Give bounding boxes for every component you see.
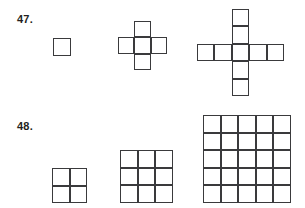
unit-square <box>70 168 88 186</box>
unit-square <box>203 168 221 186</box>
unit-square <box>221 133 239 151</box>
unit-square <box>238 115 256 133</box>
unit-square <box>138 168 156 186</box>
unit-square <box>203 150 221 168</box>
unit-square <box>138 150 156 168</box>
unit-square <box>232 79 249 96</box>
unit-square <box>221 150 239 168</box>
problem-47: 47. <box>0 0 305 104</box>
unit-square <box>134 54 150 70</box>
problem-48: 48. <box>0 104 305 208</box>
unit-square <box>232 26 249 43</box>
unit-square <box>120 185 138 203</box>
figure-3-grid-5x5 <box>203 115 291 203</box>
unit-square <box>155 168 173 186</box>
unit-square <box>238 133 256 151</box>
unit-square <box>221 168 239 186</box>
unit-square <box>249 44 266 61</box>
unit-square <box>232 61 249 78</box>
figure-1-single-square <box>53 38 71 56</box>
figure-3-large-plus <box>197 9 284 96</box>
figure-row-47 <box>0 0 305 104</box>
unit-square <box>203 133 221 151</box>
worksheet-page: 47. 48. <box>0 0 305 208</box>
unit-square <box>120 150 138 168</box>
unit-square <box>273 150 291 168</box>
unit-square <box>155 185 173 203</box>
unit-square <box>52 186 70 204</box>
unit-square <box>256 168 274 186</box>
unit-square <box>256 185 274 203</box>
unit-square <box>232 9 249 26</box>
unit-square <box>70 186 88 204</box>
unit-square <box>238 150 256 168</box>
unit-square <box>151 37 167 53</box>
unit-square <box>134 21 150 37</box>
unit-square <box>221 115 239 133</box>
unit-square <box>256 133 274 151</box>
unit-square <box>273 185 291 203</box>
unit-square <box>214 44 231 61</box>
unit-square <box>267 44 284 61</box>
unit-square <box>138 185 156 203</box>
unit-square <box>120 168 138 186</box>
figure-1-grid-2x2 <box>52 168 87 203</box>
unit-square <box>203 115 221 133</box>
figure-row-48 <box>0 104 305 208</box>
unit-square <box>221 185 239 203</box>
unit-square <box>238 168 256 186</box>
unit-square <box>118 37 134 53</box>
unit-square <box>52 168 70 186</box>
unit-square <box>256 150 274 168</box>
unit-square <box>256 115 274 133</box>
unit-square <box>273 168 291 186</box>
unit-square <box>273 115 291 133</box>
unit-square <box>197 44 214 61</box>
unit-square <box>53 38 71 56</box>
unit-square <box>203 185 221 203</box>
unit-square <box>155 150 173 168</box>
unit-square <box>134 37 150 53</box>
unit-square <box>273 133 291 151</box>
figure-2-small-plus <box>118 21 167 70</box>
figure-2-grid-3x3 <box>120 150 173 203</box>
unit-square <box>238 185 256 203</box>
unit-square <box>232 44 249 61</box>
